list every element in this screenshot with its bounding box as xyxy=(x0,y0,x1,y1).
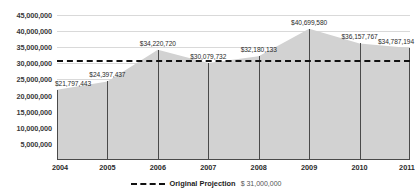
year-separator-line xyxy=(208,63,209,160)
x-axis-tick-label: 2006 xyxy=(150,163,166,172)
y-axis-tick-label: 5,000,000 xyxy=(20,139,52,148)
x-axis-tick-label: 2011 xyxy=(399,163,415,172)
y-axis-tick-label: 15,000,000 xyxy=(16,107,52,116)
y-axis-tick-label: 10,000,000 xyxy=(16,123,52,132)
x-axis-tick-label: 2008 xyxy=(251,163,267,172)
x-axis-labels: 20042005200620072008200920102011 xyxy=(57,163,410,175)
chart-legend: Original Projection $ 31,000,000 xyxy=(0,179,412,188)
x-axis-tick-label: 2007 xyxy=(200,163,216,172)
legend-dash-swatch-icon xyxy=(131,183,165,185)
point-value-label: $36,157,767 xyxy=(342,33,378,40)
x-axis-tick-label: 2010 xyxy=(351,163,367,172)
y-axis-tick-label: 35,000,000 xyxy=(16,43,52,52)
y-axis-tick-label: 30,000,000 xyxy=(16,59,52,68)
legend-label: Original Projection xyxy=(170,179,236,188)
y-axis-tick-label: 25,000,000 xyxy=(16,75,52,84)
projection-line xyxy=(57,60,410,62)
point-value-label: $34,220,720 xyxy=(140,40,176,47)
point-value-label: $24,397,437 xyxy=(89,71,125,78)
x-axis-tick-label: 2009 xyxy=(301,163,317,172)
x-axis-tick-label: 2004 xyxy=(52,163,68,172)
x-axis-line xyxy=(57,159,410,160)
point-value-label: $40,699,580 xyxy=(291,19,327,26)
year-separator-line xyxy=(259,56,260,160)
year-separator-line xyxy=(309,29,310,160)
point-value-label: $21,797,443 xyxy=(55,80,91,87)
year-separator-line xyxy=(158,50,159,160)
year-separator-line xyxy=(409,48,410,160)
y-axis-tick-label: 20,000,000 xyxy=(16,91,52,100)
point-value-label: $32,180,133 xyxy=(241,46,277,53)
year-separator-line xyxy=(57,90,58,160)
x-axis-tick-label: 2005 xyxy=(99,163,115,172)
y-axis-tick-label: 45,000,000 xyxy=(16,11,52,20)
y-axis-labels: 45,000,00040,000,00035,000,00030,000,000… xyxy=(0,15,52,160)
point-value-label: $34,787,194 xyxy=(378,38,414,45)
legend-value: $ 31,000,000 xyxy=(241,180,282,187)
plot-area: $21,797,443$24,397,437$34,220,720$30,079… xyxy=(57,15,410,160)
y-axis-tick-label: 40,000,000 xyxy=(16,27,52,36)
point-value-label: $30,079,732 xyxy=(190,53,226,60)
year-separator-line xyxy=(107,81,108,160)
